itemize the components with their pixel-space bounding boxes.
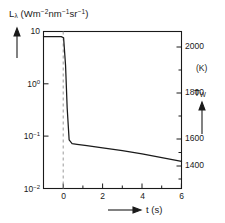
- tw-axis-arrow-icon: [199, 102, 205, 134]
- y-tick-label-2: 10−1: [12, 131, 40, 141]
- figure-canvas: Lλ (Wm−2nm−1sr−1): [0, 0, 225, 223]
- tw-subscript: W: [200, 91, 206, 98]
- y-axis-ticks: [44, 32, 49, 189]
- x-axis-symbol: t: [146, 204, 149, 215]
- right-tick-label-0: 2000: [185, 42, 204, 51]
- x-axis-ticks: [63, 184, 181, 189]
- right-axis-units: (K): [196, 64, 207, 73]
- right-axis-ticks: [177, 47, 182, 179]
- x-axis-arrow-icon: [108, 207, 141, 213]
- x-axis-units: (s): [151, 204, 162, 215]
- x-axis-label: t (s): [146, 205, 162, 215]
- data-curve-spectral-radiance: [44, 37, 182, 162]
- y-tick-label-0: 10: [20, 27, 40, 36]
- x-tick-label-3: 6: [174, 192, 189, 201]
- x-tick-label-1: 2: [95, 192, 110, 201]
- x-tick-label-2: 4: [135, 192, 150, 201]
- right-axis-label: TW: [194, 88, 206, 99]
- x-tick-label-0: 0: [56, 192, 71, 201]
- y-tick-label-1: 100: [14, 79, 40, 89]
- y-tick-label-3: 10−2: [12, 184, 40, 194]
- right-tick-label-3: 1400: [185, 161, 204, 170]
- right-tick-label-2: 1600: [185, 134, 204, 143]
